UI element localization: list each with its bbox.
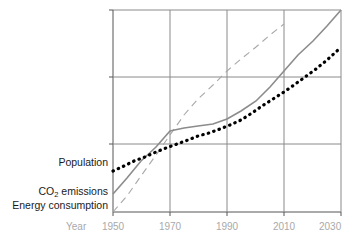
x-tick-label-2030: 2030 <box>319 221 359 233</box>
series-label-co2-emissions: CO2 emissions <box>0 185 108 199</box>
series-label-population: Population <box>0 156 108 168</box>
co2-label-suffix: emissions <box>58 185 108 197</box>
series-line-energy-consumption <box>113 24 284 212</box>
x-tick-label-1950: 1950 <box>93 221 133 233</box>
x-tick-label-2010: 2010 <box>264 221 304 233</box>
x-tick-label-1970: 1970 <box>150 221 190 233</box>
series-label-energy-consumption: Energy consumption <box>0 199 108 211</box>
axis-tick-marks <box>109 10 341 216</box>
x-axis-title: Year <box>66 221 86 233</box>
x-tick-label-1990: 1990 <box>207 221 247 233</box>
chart-container: Population CO2 emissions Energy consumpt… <box>0 0 360 244</box>
co2-label-subscript: 2 <box>54 190 58 199</box>
co2-label-prefix: CO <box>38 185 54 197</box>
